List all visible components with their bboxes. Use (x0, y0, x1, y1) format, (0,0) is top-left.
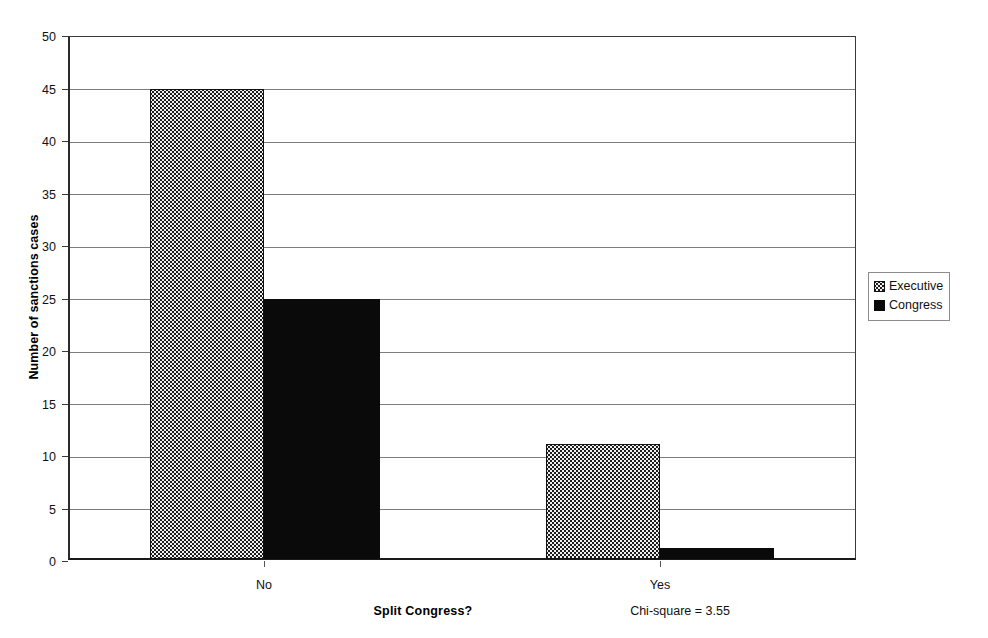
y-tick-label-35: 35 (20, 189, 56, 201)
bar-executive-no (150, 89, 264, 559)
y-tick-label-25: 25 (20, 294, 56, 306)
chi-square-annotation: Chi-square = 3.55 (590, 604, 770, 618)
y-tick-label-50: 50 (20, 31, 56, 43)
plot-area (68, 36, 856, 560)
x-axis-title: Split Congress? (333, 604, 513, 618)
bar-executive-yes (546, 444, 660, 559)
y-tick-label-40: 40 (20, 136, 56, 148)
y-tick-label-30: 30 (20, 241, 56, 253)
legend-item-congress: Congress (874, 296, 943, 315)
x-tick-label-no: No (214, 578, 314, 592)
legend-label-executive: Executive (889, 280, 943, 293)
chart-legend: Executive Congress (868, 272, 950, 321)
y-tick-label-20: 20 (20, 346, 56, 358)
y-tick-label-10: 10 (20, 451, 56, 463)
bar-congress-yes (660, 548, 774, 559)
bar-congress-no (264, 299, 380, 559)
legend-swatch-congress-icon (874, 300, 885, 311)
legend-label-congress: Congress (889, 299, 943, 312)
y-tick-mark-0 (62, 561, 68, 562)
bar-chart: Number of sanctions cases 50 45 40 35 30… (0, 0, 988, 638)
y-tick-label-5: 5 (20, 504, 56, 516)
x-tick-label-yes: Yes (610, 578, 710, 592)
legend-swatch-executive-icon (874, 281, 885, 292)
y-tick-label-45: 45 (20, 84, 56, 96)
x-tick-mark-yes (660, 561, 661, 567)
x-tick-mark-no (264, 561, 265, 567)
y-tick-label-15: 15 (20, 399, 56, 411)
legend-item-executive: Executive (874, 277, 943, 296)
y-tick-label-0: 0 (20, 556, 56, 568)
